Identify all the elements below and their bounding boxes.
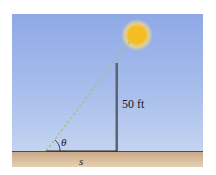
shadow-length-label: s [79,155,83,167]
angle-arc [55,140,60,151]
pole [116,63,119,151]
diagram-overlay [0,0,216,175]
pole-height-label: 50 ft [122,98,144,110]
angle-label: θ [61,136,66,148]
